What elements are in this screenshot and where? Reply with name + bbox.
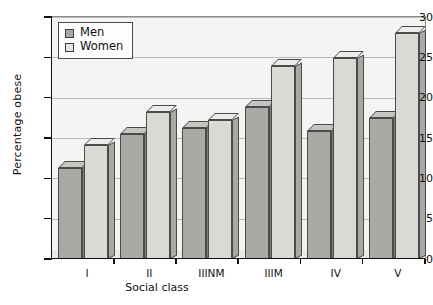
x-axis-tick-label-IIIM: IIIM <box>264 267 282 279</box>
y-axis-tick <box>44 178 52 180</box>
bar-chart: 051015202530 IIIIIINMIIIMIVV Percentage … <box>0 0 433 305</box>
y-axis-tick <box>44 258 52 260</box>
x-axis-tick <box>424 259 426 264</box>
x-axis-tick <box>113 259 115 264</box>
y-axis-tick-label: 30 <box>395 12 433 23</box>
legend-label-women: Women <box>80 41 123 53</box>
legend-swatch-women <box>65 43 74 52</box>
y-axis-tick <box>44 218 52 220</box>
x-axis-tick <box>175 259 177 264</box>
legend-label-men: Men <box>80 27 104 39</box>
y-axis-tick <box>44 137 52 139</box>
legend-item-men: Men <box>65 26 123 40</box>
y-axis-tick-label: 0 <box>395 254 433 265</box>
x-axis-tick <box>300 259 302 264</box>
x-axis-label: Social class <box>64 281 250 294</box>
y-axis-tick-label: 10 <box>395 173 433 184</box>
y-axis-tick-label: 20 <box>395 92 433 103</box>
legend: Men Women <box>58 22 133 59</box>
legend-item-women: Women <box>65 40 123 54</box>
x-axis-tick-label-V: V <box>394 267 401 279</box>
y-axis-tick <box>44 57 52 59</box>
y-axis-tick-label: 5 <box>395 213 433 224</box>
x-axis-tick-label-IV: IV <box>331 267 341 279</box>
x-axis-tick-label-I: I <box>86 267 89 279</box>
y-axis-tick-label: 25 <box>395 52 433 63</box>
y-axis-tick <box>44 97 52 99</box>
y-axis-label: Percentage obese <box>11 45 24 205</box>
x-axis-tick-label-IIINM: IIINM <box>198 267 224 279</box>
x-axis-tick-label-II: II <box>146 267 152 279</box>
x-axis-tick <box>237 259 239 264</box>
y-axis-tick <box>44 16 52 18</box>
y-axis-tick-label: 15 <box>395 133 433 144</box>
legend-swatch-men <box>65 29 74 38</box>
x-axis-tick <box>362 259 364 264</box>
